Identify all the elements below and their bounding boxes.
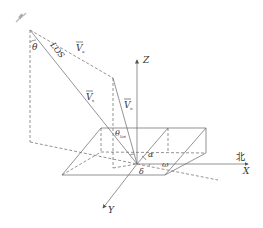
insar-geometry-diagram: θ LOS V u V s V n Z X Y 北 θ los α ω δ xyxy=(0,0,263,228)
north-label: 北 xyxy=(236,152,245,162)
omega-label: ω xyxy=(162,160,169,169)
y-axis-label: Y xyxy=(108,205,115,215)
z-axis-label: Z xyxy=(142,55,150,65)
vector-u-dashed-line xyxy=(30,30,113,78)
svg-text:los: los xyxy=(120,134,126,139)
vector-n-label: V n xyxy=(124,99,133,111)
vector-n-line xyxy=(113,78,137,164)
theta-label: θ xyxy=(32,42,38,52)
svg-text:n: n xyxy=(130,106,133,111)
satellite-icon xyxy=(16,13,26,22)
x-axis-label: X xyxy=(242,166,250,176)
svg-text:u: u xyxy=(82,49,85,54)
y-axis xyxy=(103,164,137,208)
los-label: LOS xyxy=(48,40,67,60)
theta-los-label: θ los xyxy=(115,129,126,139)
delta-label: δ xyxy=(139,167,144,176)
vector-s-label: V s xyxy=(86,91,94,103)
svg-text:s: s xyxy=(92,98,94,103)
alpha-label: α xyxy=(148,150,154,159)
vector-u-label: V u xyxy=(76,42,85,54)
